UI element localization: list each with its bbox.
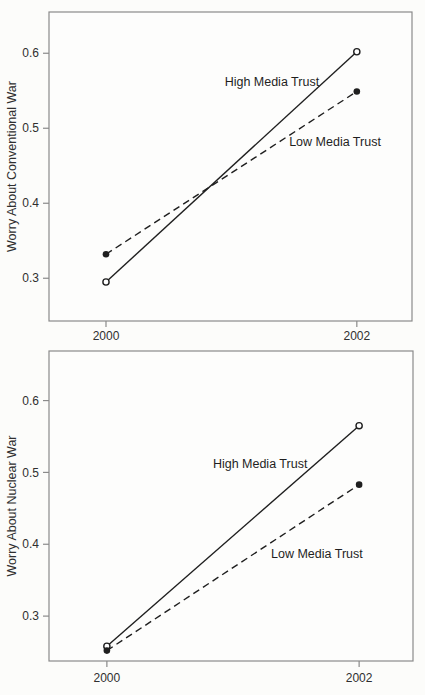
open-circle-marker (103, 279, 109, 285)
x-tick-label: 2002 (346, 671, 373, 685)
y-axis-label: Worry About Nuclear War (5, 435, 19, 576)
y-tick-label: 0.3 (22, 609, 39, 623)
y-tick-label: 0.6 (22, 394, 39, 408)
filled-circle-marker (103, 251, 110, 258)
plot-frame (49, 351, 413, 661)
plot-frame (49, 12, 412, 321)
series-label-high-media-trust: High Media Trust (213, 457, 308, 471)
open-circle-marker (356, 423, 362, 429)
y-tick-label: 0.5 (22, 121, 39, 135)
y-tick-label: 0.4 (22, 537, 39, 551)
y-tick-label: 0.4 (22, 196, 39, 210)
conventional-war-chart: 0.30.40.50.620002002Worry About Conventi… (0, 0, 425, 347)
filled-circle-marker (104, 647, 111, 654)
filled-circle-marker (356, 481, 363, 488)
series-label-high-media-trust: High Media Trust (225, 75, 320, 89)
y-tick-label: 0.3 (22, 271, 39, 285)
y-axis-label: Worry About Conventional War (5, 81, 19, 252)
chart-panel-conventional-war: 0.30.40.50.620002002Worry About Conventi… (0, 0, 425, 347)
series-label-low-media-trust: Low Media Trust (289, 135, 381, 149)
nuclear-war-chart: 0.30.40.50.620002002Worry About Nuclear … (0, 347, 425, 695)
x-tick-label: 2000 (93, 329, 120, 343)
open-circle-marker (354, 49, 360, 55)
filled-circle-marker (354, 88, 361, 95)
chart-panel-nuclear-war: 0.30.40.50.620002002Worry About Nuclear … (0, 347, 425, 695)
x-tick-label: 2000 (94, 671, 121, 685)
x-tick-label: 2002 (343, 329, 370, 343)
y-tick-label: 0.5 (22, 466, 39, 480)
series-label-low-media-trust: Low Media Trust (271, 547, 363, 561)
y-tick-label: 0.6 (22, 46, 39, 60)
figure-page: 0.30.40.50.620002002Worry About Conventi… (0, 0, 425, 695)
